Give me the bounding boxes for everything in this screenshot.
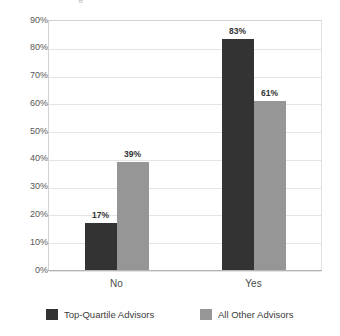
bar xyxy=(85,223,117,270)
y-axis-tick-label: 80% xyxy=(4,43,48,52)
legend-item[interactable]: Top-Quartile Advisors xyxy=(46,306,154,322)
legend-item[interactable]: All Other Advisors xyxy=(200,306,294,322)
legend-label: Top-Quartile Advisors xyxy=(64,309,154,320)
bar-value-label: 39% xyxy=(117,150,149,159)
bar-value-label: 17% xyxy=(85,211,117,220)
bars-layer: 17%39%83%61% xyxy=(48,20,322,270)
y-axis-tick-label: 40% xyxy=(4,154,48,163)
bar-value-label: 83% xyxy=(222,27,254,36)
bar xyxy=(117,162,149,270)
y-axis-tick-label: 50% xyxy=(4,127,48,136)
x-axis-category-label: No xyxy=(77,278,157,289)
y-axis-tick-mark xyxy=(44,270,48,271)
bar xyxy=(222,39,254,270)
y-axis: 90%80%70%60%50%40%30%20%10%0% xyxy=(0,0,48,336)
y-axis-tick-label: 0% xyxy=(4,266,48,275)
y-axis-tick-label: 10% xyxy=(4,238,48,247)
y-axis-tick-label: 90% xyxy=(4,16,48,25)
y-axis-tick-label: 30% xyxy=(4,182,48,191)
y-axis-tick-label: 60% xyxy=(4,99,48,108)
bar-chart: g 90%80%70%60%50%40%30%20%10%0% 17%39%83… xyxy=(0,0,340,336)
legend-color-swatch xyxy=(200,309,212,320)
bar-value-label: 61% xyxy=(254,89,286,98)
y-axis-tick-label: 20% xyxy=(4,210,48,219)
x-axis-baseline xyxy=(48,270,322,271)
legend-color-swatch xyxy=(46,309,58,320)
y-axis-tick-label: 70% xyxy=(4,71,48,80)
x-axis-category-label: Yes xyxy=(214,278,294,289)
chart-legend: Top-Quartile AdvisorsAll Other Advisors xyxy=(0,306,340,322)
gridline xyxy=(49,271,321,272)
cropped-title-text: g xyxy=(78,0,92,3)
legend-label: All Other Advisors xyxy=(218,309,294,320)
bar xyxy=(254,101,286,270)
